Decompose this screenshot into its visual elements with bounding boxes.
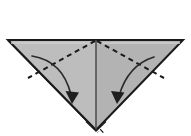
origami-figure [0,0,191,136]
origami-diagram-canvas [0,0,191,136]
